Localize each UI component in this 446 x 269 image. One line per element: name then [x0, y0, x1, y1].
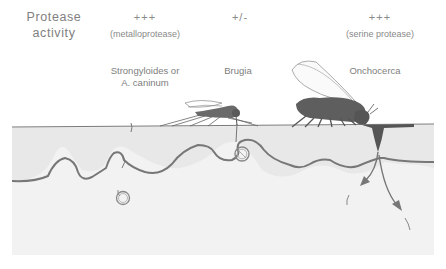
mosquito-icon: [160, 101, 258, 127]
skin-cross-section-illustration: [0, 0, 446, 269]
brugia-larva-coiled-icon: [235, 147, 249, 161]
blackfly-icon: [292, 61, 378, 127]
